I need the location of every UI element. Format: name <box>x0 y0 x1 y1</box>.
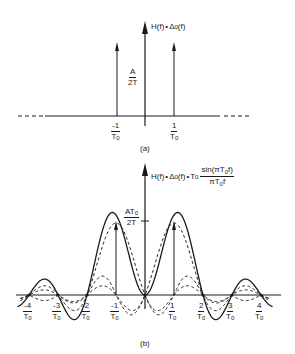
panel-b-amplitude-label: AT0 2T <box>124 208 139 227</box>
panel-b-tick-label: -2T0 <box>81 302 90 321</box>
panel-a-title: H(f) • Δ0 (f) <box>151 22 185 31</box>
panel-b-tick-label: -4T0 <box>23 302 32 321</box>
impulse-neg-arrow-icon <box>115 42 119 51</box>
panel-b-tick-label: 3T0 <box>226 302 234 321</box>
zero-crossing-dot <box>259 293 262 296</box>
zero-crossing-dot <box>27 293 30 296</box>
zero-crossing-dot <box>85 293 88 296</box>
panel-b-vertical-axis-arrow-icon <box>142 163 148 176</box>
panel-b-caption: (b) <box>140 339 150 348</box>
impulse-b-pos-arrow-icon <box>172 221 176 230</box>
panel-b <box>16 163 281 320</box>
impulse-b-neg-arrow-icon <box>114 221 118 230</box>
panel-b-tick-label: 4T0 <box>255 302 263 321</box>
zero-crossing-dot <box>230 293 233 296</box>
panel-b-title-sinc-fraction: sin(πT0f) πT0f <box>200 166 234 187</box>
panel-b-tick-label: -1T0 <box>110 302 119 321</box>
impulse-pos-arrow-icon <box>172 42 176 51</box>
panel-a-tick-pos-label: 1 T0 <box>170 122 178 141</box>
panel-a-tick-neg-label: -1 T0 <box>111 122 120 141</box>
panel-b-tick-label: 2T0 <box>197 302 205 321</box>
panel-a-vertical-axis-arrow-icon <box>142 21 148 34</box>
panel-a-amplitude-label: A 2T <box>128 68 137 87</box>
panel-b-tick-label: 1T0 <box>168 302 176 321</box>
panel-b-title: H(f) • Δ0 (f) • T0 sin(πT0f) πT0f <box>151 166 234 187</box>
figure-canvas <box>0 0 295 354</box>
zero-crossing-dot <box>201 293 204 296</box>
panel-b-tick-label: -3T0 <box>52 302 61 321</box>
zero-crossing-dot <box>143 293 146 296</box>
panel-a-caption: (a) <box>140 144 150 153</box>
zero-crossing-dot <box>56 293 59 296</box>
